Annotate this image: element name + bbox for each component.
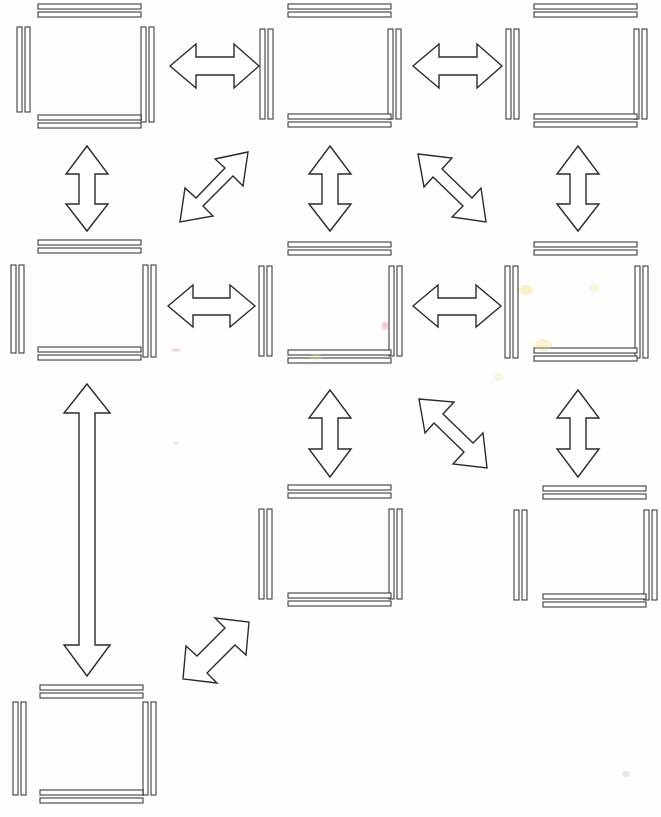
arrow-vertical-n2-n5[interactable]	[309, 146, 351, 231]
node-2-right-bar-inner	[388, 29, 393, 119]
node-8-right-bar-inner	[644, 510, 649, 600]
node-7-right-bar-inner	[389, 509, 394, 599]
speck-gray-1	[622, 771, 630, 777]
node-6-left-bar-inner	[513, 266, 518, 358]
node-7-right-bar-outer	[397, 509, 402, 599]
node-box-3[interactable]	[506, 4, 647, 127]
node-4-left-bar-outer	[11, 265, 16, 353]
node-box-2[interactable]	[260, 4, 401, 127]
speck-yellow-1	[519, 285, 533, 295]
node-6-top-bar-outer	[534, 242, 637, 247]
node-9-right-bar-inner	[143, 702, 148, 795]
diagram-canvas	[0, 0, 661, 817]
node-8-right-bar-outer	[652, 510, 657, 600]
node-9-top-bar-inner	[40, 693, 143, 698]
node-1-left-bar-inner	[25, 27, 30, 112]
arrow-vertical-n6-n8[interactable]	[557, 390, 599, 477]
node-6-right-bar-inner	[635, 266, 640, 358]
arrow-horizontal-n2-n3[interactable]	[413, 44, 502, 88]
node-5-top-bar-inner	[288, 250, 391, 255]
node-2-left-bar-inner	[268, 29, 273, 119]
node-3-bottom-bar-inner	[534, 114, 637, 119]
node-1-right-bar-inner	[141, 27, 146, 122]
arrow-diagonal-nw-se-n6-n7[interactable]	[419, 399, 487, 468]
node-1-bottom-bar-outer	[38, 123, 141, 128]
node-4-right-bar-inner	[143, 265, 148, 357]
node-3-bottom-bar-outer	[534, 122, 637, 127]
node-7-bottom-bar-outer	[288, 601, 391, 606]
node-link-diagram	[0, 0, 661, 817]
node-box-5[interactable]	[259, 242, 402, 363]
node-box-4[interactable]	[11, 240, 156, 360]
node-1-left-bar-outer	[17, 27, 22, 112]
node-8-bottom-bar-inner	[543, 594, 646, 599]
arrow-diagonal-nw-se-n3-n5[interactable]	[418, 154, 486, 222]
node-5-right-bar-inner	[389, 266, 394, 356]
node-box-1[interactable]	[17, 4, 154, 128]
node-3-left-bar-inner	[514, 29, 519, 119]
node-3-left-bar-outer	[506, 29, 511, 119]
node-7-left-bar-outer	[259, 509, 264, 599]
arrow-diagonal-ne-sw-n1-n5[interactable]	[180, 152, 248, 222]
node-7-bottom-bar-inner	[288, 593, 391, 598]
arrow-vertical-long-n4-n9[interactable]	[64, 384, 110, 676]
node-2-left-bar-outer	[260, 29, 265, 119]
node-7-top-bar-outer	[288, 485, 391, 490]
node-5-top-bar-outer	[288, 242, 391, 247]
speck-yellow-4	[310, 354, 322, 360]
node-5-bottom-bar-inner	[288, 350, 391, 355]
node-1-top-bar-inner	[38, 12, 141, 17]
node-8-left-bar-outer	[514, 510, 519, 600]
node-4-bottom-bar-outer	[38, 355, 141, 360]
node-9-bottom-bar-outer	[40, 798, 143, 803]
node-3-top-bar-outer	[534, 4, 637, 9]
node-4-top-bar-outer	[38, 240, 141, 245]
node-7-top-bar-inner	[288, 493, 391, 498]
speck-yellow-2	[534, 339, 552, 351]
node-1-right-bar-outer	[149, 27, 154, 122]
node-4-right-bar-outer	[151, 265, 156, 357]
arrow-vertical-n1-n4[interactable]	[66, 146, 108, 231]
node-5-right-bar-outer	[397, 266, 402, 356]
node-9-top-bar-outer	[40, 685, 143, 690]
node-8-bottom-bar-outer	[543, 602, 646, 607]
speck-gray-2	[173, 441, 179, 445]
node-box-9[interactable]	[13, 685, 156, 803]
node-2-top-bar-inner	[288, 12, 391, 17]
arrow-horizontal-n5-n6[interactable]	[413, 285, 501, 327]
arrow-horizontal-n4-n5[interactable]	[168, 285, 255, 327]
node-4-top-bar-inner	[38, 248, 141, 253]
node-box-7[interactable]	[259, 485, 402, 606]
node-6-bottom-bar-outer	[534, 356, 637, 361]
node-1-bottom-bar-inner	[38, 115, 141, 120]
node-1-top-bar-outer	[38, 4, 141, 9]
node-8-left-bar-inner	[522, 510, 527, 600]
node-6-right-bar-outer	[643, 266, 648, 358]
arrow-vertical-n3-n6[interactable]	[557, 146, 599, 231]
node-3-right-bar-outer	[642, 29, 647, 119]
node-2-right-bar-outer	[396, 29, 401, 119]
speck-yellow-5	[494, 373, 504, 381]
node-5-left-bar-inner	[267, 266, 272, 356]
arrow-horizontal-n1-n2[interactable]	[170, 44, 259, 88]
node-9-left-bar-inner	[21, 702, 26, 795]
node-2-bottom-bar-inner	[288, 114, 391, 119]
node-4-left-bar-inner	[19, 265, 24, 353]
node-box-8[interactable]	[514, 486, 657, 607]
speck-pink-1	[382, 322, 389, 330]
node-9-bottom-bar-inner	[40, 790, 143, 795]
node-6-top-bar-inner	[534, 250, 637, 255]
node-3-right-bar-inner	[634, 29, 639, 119]
node-2-top-bar-outer	[288, 4, 391, 9]
node-7-left-bar-inner	[267, 509, 272, 599]
node-9-left-bar-outer	[13, 702, 18, 795]
node-3-top-bar-inner	[534, 12, 637, 17]
node-box-6[interactable]	[505, 242, 648, 361]
arrow-vertical-n5-n7[interactable]	[309, 390, 351, 477]
node-6-left-bar-outer	[505, 266, 510, 358]
node-8-top-bar-inner	[543, 494, 646, 499]
node-5-bottom-bar-outer	[288, 358, 391, 363]
node-4-bottom-bar-inner	[38, 347, 141, 352]
node-8-top-bar-outer	[543, 486, 646, 491]
arrow-diagonal-ne-sw-n9-n7[interactable]	[183, 618, 249, 683]
